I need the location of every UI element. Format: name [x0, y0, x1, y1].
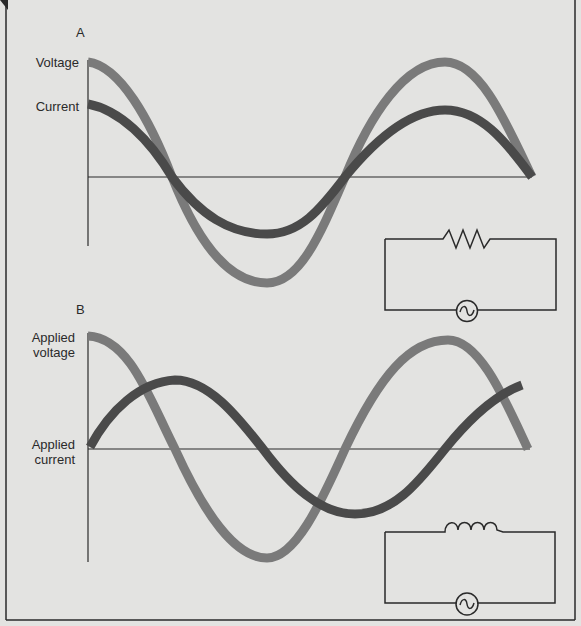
- panel-a-voltage-wave: [88, 62, 532, 283]
- panel-b-current-label-line1: Applied: [32, 437, 75, 452]
- resistor-icon: [385, 230, 556, 310]
- panel-a-title: A: [76, 25, 85, 40]
- panel-a-current-wave: [88, 104, 532, 234]
- panel-a-circuit: [385, 230, 556, 322]
- panel-b-voltage-label-line2: voltage: [32, 345, 75, 360]
- diagram-canvas: [0, 0, 581, 626]
- panel-b-voltage-wave: [88, 336, 528, 558]
- panel-b-current-label: Applied current: [32, 437, 75, 467]
- panel-b-voltage-label-line1: Applied: [32, 330, 75, 345]
- panel-b-circuit: [385, 523, 555, 616]
- panel-b-title: B: [76, 302, 85, 317]
- panel-b-voltage-label: Applied voltage: [32, 330, 75, 360]
- panel-b-current-label-line2: current: [32, 452, 75, 467]
- inductor-icon: [385, 523, 555, 604]
- diagram: A Voltage Current B Applied voltage Appl…: [0, 0, 581, 626]
- panel-a-current-label: Current: [36, 99, 79, 114]
- panel-a-voltage-label: Voltage: [36, 55, 79, 70]
- corner-mark: [0, 0, 8, 10]
